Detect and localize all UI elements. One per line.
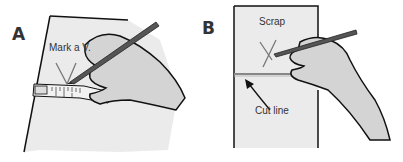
scrap-label: Scrap xyxy=(259,16,285,27)
panel-b: B Scrap Cut line xyxy=(200,0,403,162)
panel-letter-a: A xyxy=(12,24,25,44)
panel-a: A Mark a V. xyxy=(0,0,200,162)
mark-a-v-label: Mark a V. xyxy=(49,42,91,53)
panel-b-illustration xyxy=(200,0,403,162)
panel-a-illustration xyxy=(0,0,200,162)
cut-line-label: Cut line xyxy=(255,105,289,116)
hand-shape xyxy=(85,34,185,110)
panel-letter-b: B xyxy=(202,18,215,38)
